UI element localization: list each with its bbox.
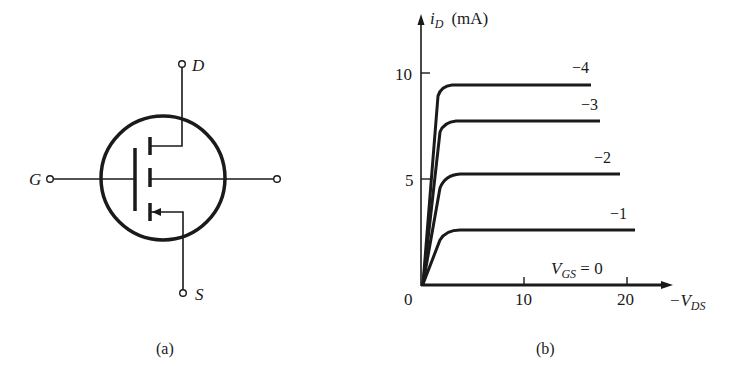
y-axis-arrow-icon [418, 14, 425, 25]
y-tick-label-10: 10 [395, 65, 412, 84]
source-label: S [195, 285, 204, 304]
x-tick-label-10: 10 [515, 290, 532, 309]
y-axis-label: iD(mA) [430, 9, 488, 31]
mosfet-symbol [47, 61, 281, 297]
body-terminal-icon [274, 176, 281, 183]
curve-vgs-minus-4 [423, 85, 591, 284]
source-arrow-icon [152, 208, 161, 216]
curve-vgs-minus-1 [423, 230, 635, 284]
caption-a: (a) [156, 340, 174, 358]
curve-label-minus-4: −4 [572, 59, 589, 76]
gate-terminal-icon [47, 176, 54, 183]
source-lead [151, 212, 183, 290]
transistor-circle-icon [101, 116, 225, 240]
drain-label: D [191, 56, 205, 75]
curve-vgs-minus-3 [423, 121, 600, 284]
drain-lead [151, 67, 182, 146]
x-tick-label-20: 20 [617, 290, 634, 309]
x-axis-label: −VDS [669, 291, 706, 313]
figure-canvas: D G S iD(mA) 10 5 0 10 20 −VDS −4 −3 −2 … [0, 0, 744, 378]
caption-b: (b) [536, 340, 555, 358]
curve-label-minus-2: −2 [594, 149, 611, 166]
curve-label-minus-1: −1 [610, 205, 627, 222]
id-vds-chart [418, 14, 674, 289]
source-terminal-icon [180, 290, 187, 297]
drain-terminal-icon [179, 61, 186, 68]
x-tick-label-0: 0 [404, 290, 413, 309]
x-axis-arrow-icon [661, 281, 673, 289]
curve-label-minus-3: −3 [581, 96, 598, 113]
gate-label: G [29, 170, 41, 189]
y-tick-label-5: 5 [405, 171, 414, 190]
vgs-zero-label: VGS = 0 [551, 259, 603, 281]
